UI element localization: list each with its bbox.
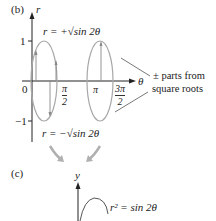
tick-1: 1 bbox=[20, 36, 26, 47]
panel-b-label: (b) bbox=[11, 4, 24, 15]
diagram-graphics bbox=[0, 0, 216, 221]
lemniscate-equation: r² = sin 2θ bbox=[110, 202, 157, 213]
r-axis-label: r bbox=[36, 4, 40, 15]
annotation-line2: square roots bbox=[152, 84, 203, 95]
tick-pi-half: π2 bbox=[62, 84, 67, 107]
lemniscate-loop bbox=[80, 198, 108, 221]
tick-3pi-half: 3π2 bbox=[115, 84, 125, 107]
theta-axis-arrow-icon bbox=[129, 79, 136, 84]
panel-c-label: (c) bbox=[11, 168, 23, 179]
annotation-line1: ± parts from bbox=[153, 71, 205, 82]
tick-0: 0 bbox=[22, 84, 28, 95]
r-axis-arrow-icon bbox=[30, 12, 35, 19]
y-axis-arrow-icon bbox=[76, 182, 81, 189]
tick-neg1: −1 bbox=[15, 116, 27, 127]
lower-equation: r = −√sin 2θ bbox=[42, 128, 99, 139]
upper-equation: r = +√sin 2θ bbox=[43, 26, 100, 37]
tick-pi: π bbox=[93, 85, 98, 95]
y-axis-label: y bbox=[75, 170, 80, 181]
theta-axis-label: θ bbox=[138, 76, 143, 87]
